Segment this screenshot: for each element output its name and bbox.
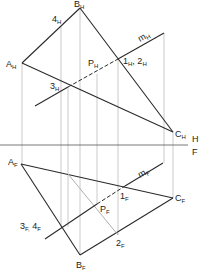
label-a-h: AH: [6, 59, 16, 70]
edge-ab-h: [22, 8, 80, 63]
folding-label-f: F: [192, 147, 198, 157]
label-c-f: CF: [175, 193, 186, 204]
label-1-f: 1F: [120, 191, 129, 202]
label-4-h: 4H: [52, 14, 61, 25]
label-a-f: AF: [8, 157, 18, 168]
label-3-h: 3H: [50, 81, 59, 92]
label-b-f: BF: [76, 260, 86, 271]
projector-lines: [22, 8, 173, 255]
label-2-f: 2F: [116, 238, 125, 249]
construction-line-f: [68, 174, 118, 235]
edge-bc-h: [80, 8, 173, 132]
projection-diagram: H F AH BH CH 4H 3H PH 1H, 2H mH AF: [0, 0, 202, 275]
label-1-2-h: 1H, 2H: [123, 56, 147, 67]
top-view-labels: AH BH CH 4H 3H PH 1H, 2H mH: [6, 0, 186, 140]
line-m-f-lower: [45, 204, 97, 239]
label-p-h: PH: [88, 58, 98, 69]
label-b-h: BH: [74, 0, 84, 10]
label-c-h: CH: [175, 129, 186, 140]
label-m-h: mH: [136, 29, 152, 44]
top-view: [22, 8, 173, 132]
folding-label-h: H: [192, 134, 199, 144]
edge-ac-h: [22, 63, 173, 132]
label-p-f: PF: [100, 204, 110, 215]
label-3-4-f: 3F, 4F: [20, 221, 41, 232]
